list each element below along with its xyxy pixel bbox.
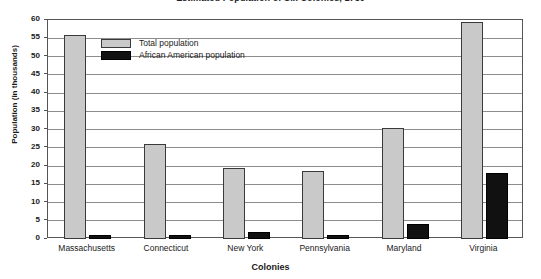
y-tick-label: 35	[0, 106, 40, 114]
legend-label: African American population	[139, 51, 245, 60]
bar-chart: Estimated Population of Six Colonies, 17…	[0, 0, 541, 279]
gridline	[48, 93, 522, 94]
y-tick-mark	[44, 201, 47, 202]
y-tick-label: 30	[0, 125, 40, 133]
bar-total-pennsylvania	[302, 171, 324, 239]
bar-aa-new-york	[248, 232, 270, 239]
bar-aa-massachusetts	[89, 235, 111, 239]
gridline	[48, 74, 522, 75]
legend-label: Total population	[139, 39, 199, 48]
y-tick-mark	[44, 238, 47, 239]
y-tick-label: 5	[0, 216, 40, 224]
gridline	[48, 166, 522, 167]
y-tick-mark	[44, 146, 47, 147]
gridline	[48, 202, 522, 203]
gridline	[48, 111, 522, 112]
y-tick-mark	[44, 55, 47, 56]
y-tick-label: 20	[0, 161, 40, 169]
y-tick-label: 25	[0, 143, 40, 151]
y-tick-label: 45	[0, 70, 40, 78]
y-tick-mark	[44, 73, 47, 74]
bar-total-connecticut	[144, 144, 166, 239]
bar-total-maryland	[382, 128, 404, 239]
legend-item: Total population	[101, 38, 245, 49]
gridline	[48, 147, 522, 148]
y-tick-label: 10	[0, 198, 40, 206]
y-tick-label: 50	[0, 52, 40, 60]
bar-aa-maryland	[407, 224, 429, 239]
bar-total-massachusetts	[64, 35, 86, 239]
y-tick-mark	[44, 165, 47, 166]
y-tick-label: 60	[0, 15, 40, 23]
legend-item: African American population	[101, 50, 245, 61]
x-tick-label-virginia: Virginia	[433, 243, 533, 253]
bar-aa-connecticut	[169, 235, 191, 239]
y-tick-label: 55	[0, 33, 40, 41]
bar-total-virginia	[461, 22, 483, 239]
y-tick-label: 40	[0, 88, 40, 96]
legend-swatch-total-population	[101, 39, 131, 48]
y-tick-mark	[44, 110, 47, 111]
y-tick-mark	[44, 183, 47, 184]
y-tick-mark	[44, 37, 47, 38]
bar-total-new-york	[223, 168, 245, 239]
gridline	[48, 220, 522, 221]
chart-title: Estimated Population of Six Colonies, 17…	[0, 0, 541, 4]
y-tick-mark	[44, 19, 47, 20]
x-axis-title: Colonies	[0, 262, 541, 272]
y-tick-mark	[44, 219, 47, 220]
y-tick-mark	[44, 92, 47, 93]
bar-aa-pennsylvania	[327, 235, 349, 239]
y-tick-label: 15	[0, 179, 40, 187]
y-tick-label: 0	[0, 234, 40, 242]
bar-aa-virginia	[486, 173, 508, 239]
y-tick-mark	[44, 128, 47, 129]
gridline	[48, 184, 522, 185]
legend-swatch-african-american-population	[101, 51, 131, 60]
chart-legend: Total populationAfrican American populat…	[101, 38, 245, 62]
gridline	[48, 129, 522, 130]
